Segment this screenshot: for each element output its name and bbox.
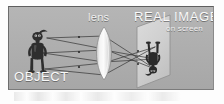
on-screen-label: on screen	[166, 25, 203, 33]
real-image-label: REAL IMAGE	[134, 10, 214, 23]
print-bleed-artifact	[14, 92, 200, 101]
lens-label: lens	[88, 12, 109, 23]
diagram-panel: lens REAL IMAGE on screen OBJECT	[8, 6, 214, 90]
figure-root: lens REAL IMAGE on screen OBJECT	[0, 0, 224, 104]
object-figure-icon	[28, 30, 47, 74]
object-label: OBJECT	[14, 70, 69, 83]
